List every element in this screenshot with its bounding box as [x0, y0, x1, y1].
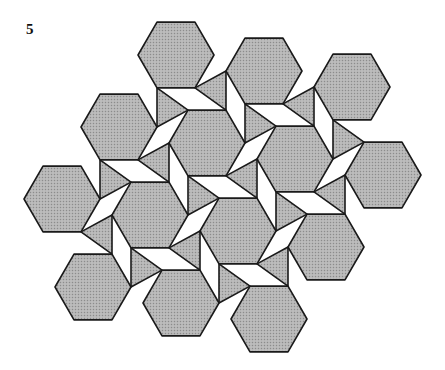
- hexagon-tile: [24, 166, 100, 232]
- hexagon-tile: [55, 254, 131, 320]
- hexagon-tile: [81, 94, 157, 160]
- hexagon-tile: [231, 286, 307, 352]
- hexagon-tile: [314, 54, 390, 120]
- hexagon-tile: [138, 22, 214, 88]
- hexagon-tile: [169, 110, 245, 176]
- hexagon-tile: [257, 126, 333, 192]
- hexagon-tile: [345, 142, 421, 208]
- hexagon-tile: [226, 38, 302, 104]
- hexagon-tile: [143, 270, 219, 336]
- hexagon-tile: [288, 214, 364, 280]
- hexagons-group: [24, 22, 421, 352]
- hexagon-tiling-diagram: [0, 0, 445, 370]
- hexagon-tile: [112, 182, 188, 248]
- hexagon-tile: [200, 198, 276, 264]
